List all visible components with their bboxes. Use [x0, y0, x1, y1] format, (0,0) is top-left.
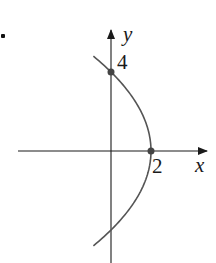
chart-canvas — [0, 0, 216, 263]
parabola-figure: y 4 2 x — [0, 0, 216, 263]
y-axis-label: y — [123, 22, 132, 47]
point-y-intercept — [108, 69, 115, 76]
x-tick-label: 2 — [152, 154, 163, 179]
y-tick-label: 4 — [117, 50, 128, 75]
x-axis-label: x — [195, 153, 204, 178]
